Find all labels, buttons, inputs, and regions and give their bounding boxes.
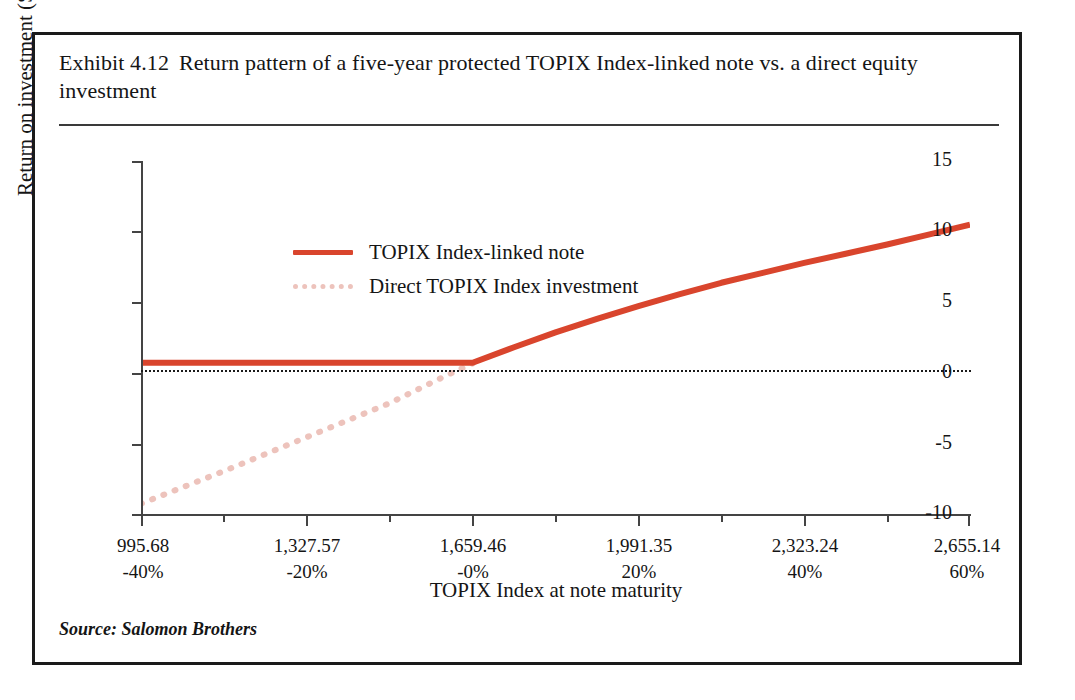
x-tick-mark (306, 515, 308, 526)
y-tick-label: 10 (932, 218, 952, 241)
legend-label-note: TOPIX Index-linked note (369, 240, 584, 265)
y-tick-mark (132, 302, 141, 304)
x-minor-tick-mark (389, 515, 391, 522)
page-title: Exhibit 4.12Return pattern of a five-yea… (59, 49, 989, 105)
y-axis-title: Return on investment (S.A.) (%) (13, 0, 38, 219)
series-line-direct-index (141, 363, 473, 503)
legend-label-index: Direct TOPIX Index investment (369, 274, 638, 299)
legend-item-index: Direct TOPIX Index investment (293, 269, 638, 303)
x-tick-index-value: 1,327.57 (274, 533, 341, 559)
exhibit-frame: Exhibit 4.12Return pattern of a five-yea… (32, 32, 1022, 665)
x-tick-index-value: 995.68 (117, 533, 169, 559)
x-minor-tick-mark (223, 515, 225, 522)
x-tick-label: 2,323.24 40% (772, 533, 839, 584)
x-tick-index-value: 1,991.35 (606, 533, 673, 559)
x-tick-label: 1,659.46 -0% (440, 533, 507, 584)
legend: TOPIX Index-linked note Direct TOPIX Ind… (293, 235, 638, 303)
x-tick-index-value: 2,323.24 (772, 533, 839, 559)
x-minor-tick-mark (887, 515, 889, 522)
y-tick-label: -10 (925, 501, 952, 524)
title-divider (59, 124, 999, 126)
x-tick-index-value: 2,655.14 (934, 533, 1001, 559)
legend-swatch-solid-icon (293, 242, 353, 262)
y-tick-label: -5 (935, 431, 952, 454)
y-tick-mark (132, 514, 141, 516)
y-tick-mark (132, 231, 141, 233)
exhibit-number: Exhibit 4.12 (59, 50, 169, 75)
x-minor-tick-mark (555, 515, 557, 522)
y-tick-label: 5 (942, 289, 952, 312)
x-tick-index-value: 1,659.46 (440, 533, 507, 559)
y-tick-mark (132, 161, 141, 163)
x-tick-mark (968, 515, 970, 526)
exhibit-title-line1: Return pattern of a five-year protected … (179, 50, 754, 75)
x-tick-mark (804, 515, 806, 526)
x-tick-label: 2,655.14 60% (934, 533, 1001, 584)
y-axis-line (141, 161, 143, 516)
x-tick-mark (141, 515, 143, 526)
x-tick-label: 1,327.57 -20% (274, 533, 341, 584)
x-tick-mark (638, 515, 640, 526)
x-tick-mark (472, 515, 474, 526)
y-tick-mark (132, 444, 141, 446)
plot-area: 15 10 5 0 -5 -10 995.68 -40% 1, (141, 161, 970, 515)
x-axis-title: TOPIX Index at note maturity (141, 578, 971, 603)
x-tick-label: 995.68 -40% (117, 533, 169, 584)
y-tick-label: 15 (932, 148, 952, 171)
y-tick-mark (132, 373, 141, 375)
chart-canvas: Return on investment (S.A.) (%) 15 10 5 … (35, 131, 1019, 631)
x-tick-label: 1,991.35 20% (606, 533, 673, 584)
source-note: Source: Salomon Brothers (59, 619, 257, 640)
legend-item-note: TOPIX Index-linked note (293, 235, 638, 269)
zero-reference-line (141, 370, 971, 372)
x-minor-tick-mark (721, 515, 723, 522)
legend-swatch-dotted-icon (293, 276, 353, 296)
series-plot (141, 161, 970, 516)
